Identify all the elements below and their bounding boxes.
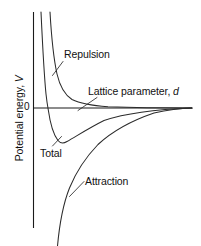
total-label: Total: [40, 148, 62, 159]
repulsion-leader-line: [53, 62, 64, 76]
lattice-parameter-label: Lattice parameter, d: [88, 86, 179, 97]
repulsion-label: Repulsion: [64, 49, 110, 60]
lattice-parameter-text: Lattice parameter,: [88, 85, 173, 97]
attraction-label: Attraction: [85, 176, 128, 187]
lattice-parameter-symbol: d: [173, 85, 179, 97]
total-curve: [41, 12, 192, 143]
plot-canvas: [0, 0, 201, 246]
lattice-parameter-leader-line: [78, 98, 97, 111]
y-axis-label-text: Potential energy,: [13, 82, 25, 161]
zero-tick-label: 0: [24, 102, 29, 112]
y-axis-label: Potential energy, V: [14, 56, 25, 180]
potential-energy-figure: Potential energy, V 0 Repulsion Lattice …: [0, 0, 201, 246]
y-axis-label-symbol: V: [13, 75, 25, 82]
total-leader-line: [53, 137, 62, 147]
